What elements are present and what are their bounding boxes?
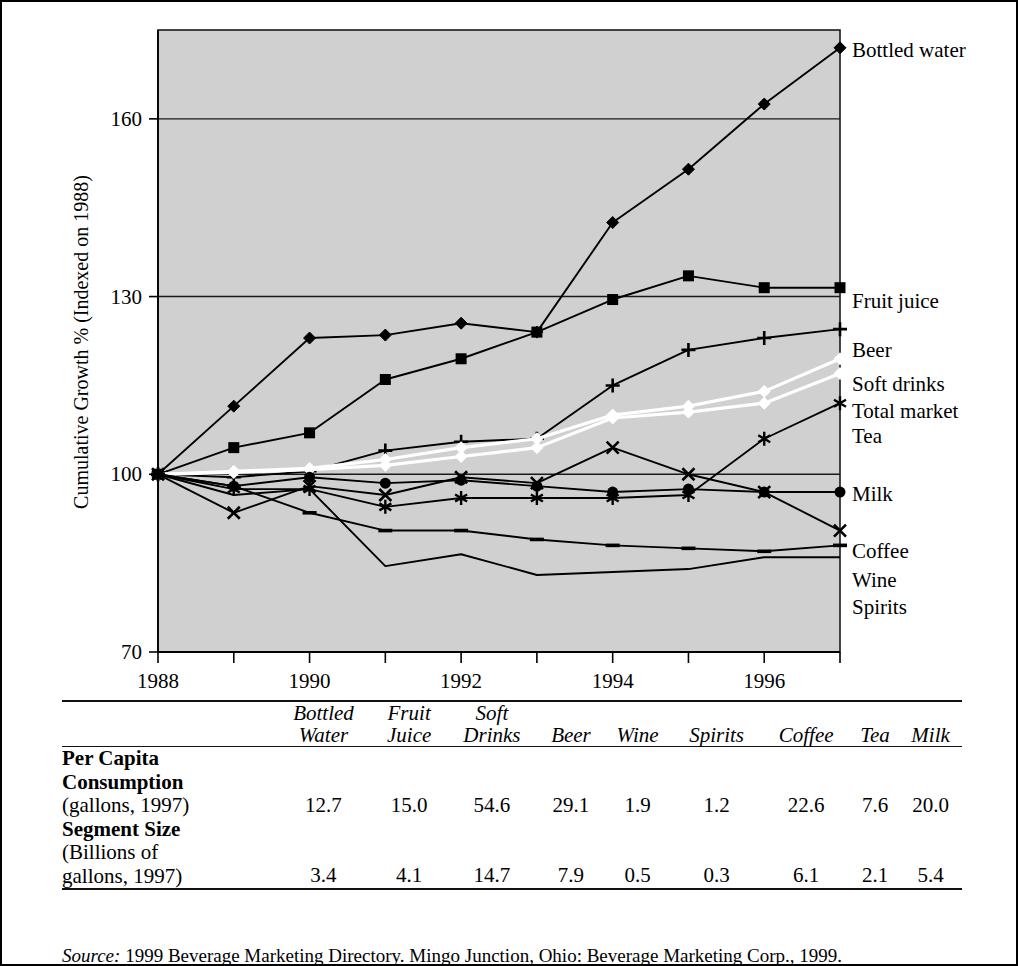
data-point-circle — [607, 487, 618, 498]
tick-label-y: 100 — [111, 462, 143, 486]
cell-value: 5.4 — [899, 818, 962, 890]
cell-value: 7.9 — [539, 818, 604, 890]
tick-label-x: 1992 — [440, 669, 482, 692]
table-body: Per Capita Consumption (gallons, 1997) 1… — [62, 747, 962, 890]
legend-label-fruit-juice: Fruit juice — [852, 289, 939, 313]
data-point-dash — [606, 544, 620, 548]
table-head: Bottled Water Fruit Juice Soft Drinks Be… — [62, 701, 962, 747]
col-header-wine: Wine — [603, 701, 672, 747]
col-header-bottled-water: Bottled Water — [274, 701, 373, 747]
row-label-line3: (gallons, 1997) — [62, 793, 189, 817]
cell-value: 20.0 — [899, 747, 962, 818]
tick-label-x: 1994 — [592, 669, 635, 692]
legend-label-coffee: Coffee — [852, 539, 909, 563]
cell-value: 12.7 — [274, 747, 373, 818]
beverage-data-table: Bottled Water Fruit Juice Soft Drinks Be… — [62, 700, 962, 890]
table-header-row: Bottled Water Fruit Juice Soft Drinks Be… — [62, 701, 962, 747]
row-label-line1: Segment Size — [62, 817, 180, 841]
legend-label-total-market: Total market — [852, 399, 959, 423]
cell-value: 15.0 — [373, 747, 445, 818]
col-header-spirits: Spirits — [672, 701, 762, 747]
source-text: 1999 Beverage Marketing Directory. Mingo… — [120, 945, 842, 966]
data-point-square — [456, 353, 467, 364]
cell-value: 6.1 — [761, 818, 850, 890]
row-label-line2: (Billions of — [62, 840, 158, 864]
table-row: Segment Size (Billions of gallons, 1997)… — [62, 818, 962, 890]
tick-label-y: 160 — [111, 107, 143, 131]
data-point-dash — [681, 547, 695, 551]
col-header-milk: Milk — [899, 701, 962, 747]
col-header-coffee: Coffee — [761, 701, 850, 747]
figure-container: 7010013016019881990199219941996Cumulativ… — [0, 0, 1018, 966]
tick-label-x: 1988 — [137, 669, 179, 692]
data-point-dash — [378, 529, 392, 533]
data-point-circle — [835, 487, 846, 498]
row-label-line3: gallons, 1997) — [62, 864, 182, 888]
data-point-square — [304, 427, 315, 438]
cell-value: 0.3 — [672, 818, 762, 890]
data-point-square — [228, 442, 239, 453]
row-label-per-capita: Per Capita Consumption (gallons, 1997) — [62, 747, 274, 818]
row-label-line1: Per Capita — [62, 746, 159, 770]
row-label-segment-size: Segment Size (Billions of gallons, 1997) — [62, 818, 274, 890]
data-point-square — [607, 294, 618, 305]
legend-label-tea: Tea — [852, 424, 883, 448]
col-header-soft-drinks: Soft Drinks — [445, 701, 538, 747]
data-point-square — [380, 374, 391, 385]
line-chart: 7010013016019881990199219941996Cumulativ… — [2, 2, 1018, 692]
legend-label-spirits: Spirits — [852, 595, 907, 619]
data-point-square — [683, 270, 694, 281]
tick-label-y: 70 — [121, 640, 142, 664]
data-point-dash — [757, 549, 771, 553]
legend-label-milk: Milk — [852, 482, 893, 506]
source-note: Source: 1999 Beverage Marketing Director… — [62, 946, 1002, 966]
cell-value: 7.6 — [851, 747, 899, 818]
cell-value: 14.7 — [445, 818, 538, 890]
tick-label-x: 1996 — [743, 669, 785, 692]
cell-value: 1.2 — [672, 747, 762, 818]
legend-label-bottled-water: Bottled water — [852, 38, 966, 62]
chart-area: 7010013016019881990199219941996Cumulativ… — [2, 2, 1018, 692]
data-point-square — [835, 282, 846, 293]
cell-value: 0.5 — [603, 818, 672, 890]
plot-background — [158, 30, 840, 652]
tick-label-x: 1990 — [289, 669, 331, 692]
cell-value: 54.6 — [445, 747, 538, 818]
cell-value: 1.9 — [603, 747, 672, 818]
table-corner-cell — [62, 701, 274, 747]
cell-value: 2.1 — [851, 818, 899, 890]
cell-value: 29.1 — [539, 747, 604, 818]
data-point-square — [759, 282, 770, 293]
data-point-dash — [303, 511, 317, 515]
cell-value: 22.6 — [761, 747, 850, 818]
data-point-dash — [454, 529, 468, 533]
legend-label-beer: Beer — [852, 338, 892, 362]
data-point-square — [531, 327, 542, 338]
table-row: Per Capita Consumption (gallons, 1997) 1… — [62, 747, 962, 818]
cell-value: 4.1 — [373, 818, 445, 890]
legend-label-soft-drinks: Soft drinks — [852, 372, 945, 396]
col-header-tea: Tea — [851, 701, 899, 747]
axis-title-y: Cumulative Growth % (Indexed on 1988) — [70, 175, 93, 509]
cell-value: 3.4 — [274, 818, 373, 890]
legend-label-wine: Wine — [852, 568, 897, 592]
data-point-circle — [380, 478, 391, 489]
source-prefix: Source: — [62, 945, 120, 966]
tick-label-y: 130 — [111, 285, 143, 309]
data-point-dash — [833, 544, 847, 548]
col-header-beer: Beer — [539, 701, 604, 747]
col-header-fruit-juice: Fruit Juice — [373, 701, 445, 747]
data-point-dash — [530, 538, 544, 542]
data-table-wrapper: Bottled Water Fruit Juice Soft Drinks Be… — [62, 700, 962, 890]
row-label-line2: Consumption — [62, 770, 183, 794]
data-point-circle — [683, 484, 694, 495]
data-point-dash — [227, 484, 241, 488]
